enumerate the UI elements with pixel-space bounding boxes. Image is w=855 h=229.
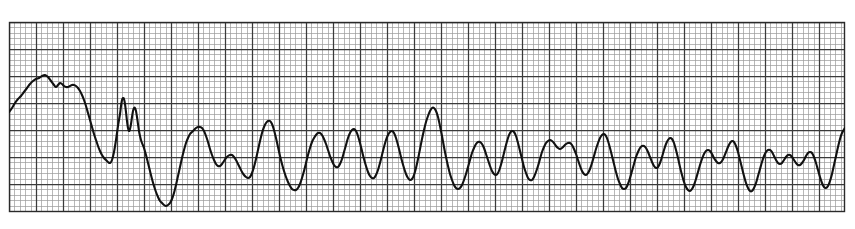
ecg-rhythm-strip: [0, 0, 855, 229]
ecg-trace-canvas: [0, 0, 855, 229]
